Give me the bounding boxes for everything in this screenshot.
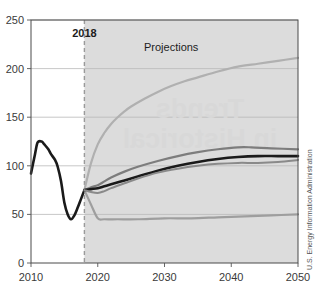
y-tick-label-0: 0 xyxy=(18,257,24,269)
x-axis-ticks: 20102020203020402050 xyxy=(19,263,310,283)
x-tick-label-2040: 2040 xyxy=(219,271,243,283)
x-tick-label-2020: 2020 xyxy=(86,271,110,283)
y-tick-label-250: 250 xyxy=(6,14,24,26)
y-tick-label-150: 150 xyxy=(6,111,24,123)
y-tick-label-100: 100 xyxy=(6,160,24,172)
projections-region-label: Projections xyxy=(144,41,199,53)
source-attribution-label: U.S. Energy Information Administration xyxy=(306,149,314,270)
y-tick-label-200: 200 xyxy=(6,63,24,75)
watermark-line-2: in Historical xyxy=(123,124,278,154)
watermark-line-1: Trends xyxy=(156,94,245,124)
y-axis-ticks: 050100150200250 xyxy=(6,14,31,269)
history-projection-divider-label: 2018 xyxy=(72,27,96,39)
x-tick-label-2050: 2050 xyxy=(286,271,310,283)
x-tick-label-2030: 2030 xyxy=(152,271,176,283)
line-chart: Trendsin Historical 050100150200250 2010… xyxy=(0,0,323,306)
y-tick-label-50: 50 xyxy=(12,208,24,220)
source-note: U.S. Energy Information Administration xyxy=(306,149,314,270)
chart-container: Trendsin Historical 050100150200250 2010… xyxy=(0,0,323,306)
x-tick-label-2010: 2010 xyxy=(19,271,43,283)
